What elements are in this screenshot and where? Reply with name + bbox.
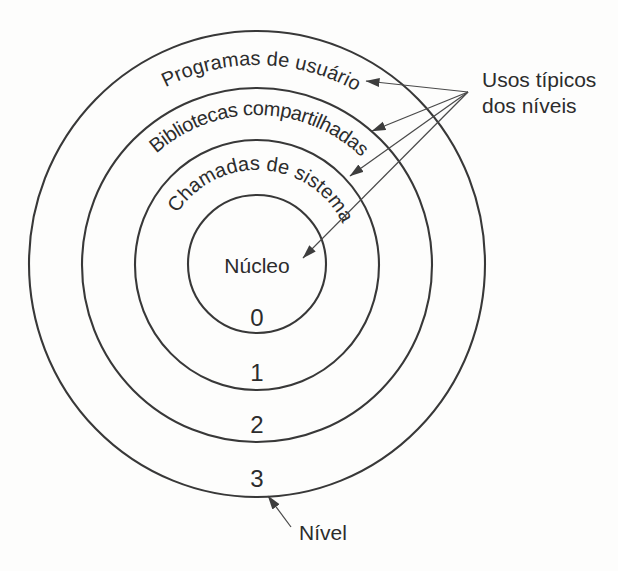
figure-canvas: Programas de usuário Bibliotecas compart… — [0, 0, 618, 571]
protection-rings-diagram: Programas de usuário Bibliotecas compart… — [0, 0, 618, 571]
nivel-label: Nível — [299, 521, 347, 544]
level-number-2: 2 — [250, 411, 263, 438]
callout-arrow-to-level-3 — [366, 81, 468, 92]
ring-label-nucleo: Núcleo — [224, 254, 289, 277]
callout-uses-line2: dos níveis — [482, 94, 577, 117]
callout-uses-line1: Usos típicos — [482, 68, 596, 91]
level-number-3: 3 — [250, 465, 263, 492]
ring-label-chamadas: Chamadas de sistema — [163, 152, 359, 227]
callout-arrow-to-level-2 — [372, 92, 468, 131]
level-number-1: 1 — [250, 359, 263, 386]
nivel-pointer-arrow — [268, 496, 291, 527]
callout-arrow-to-level-1 — [350, 92, 468, 176]
level-number-0: 0 — [250, 304, 263, 331]
